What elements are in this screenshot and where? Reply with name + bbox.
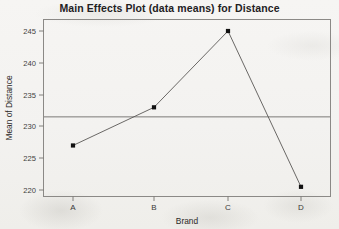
x-tick-label-d: D [298, 203, 304, 212]
y-tick-label-235: 235 [23, 91, 36, 100]
data-point-d [299, 185, 303, 189]
series-line-mean-of-distance [73, 31, 301, 187]
main-effects-plot: 245 240 235 230 225 220 Mean of Distance… [0, 0, 339, 229]
data-point-c [226, 29, 230, 33]
data-point-a [71, 143, 75, 147]
x-tick-label-b: B [151, 203, 156, 212]
y-tick-label-225: 225 [23, 154, 36, 163]
x-axis-title: Brand [176, 216, 199, 226]
series-markers [71, 29, 303, 189]
x-axis-ticks [73, 197, 301, 202]
y-tick-label-240: 240 [23, 59, 36, 68]
x-tick-label-a: A [70, 203, 76, 212]
x-tick-label-c: C [225, 203, 231, 212]
y-tick-label-245: 245 [23, 27, 36, 36]
y-tick-label-220: 220 [23, 186, 36, 195]
y-tick-label-230: 230 [23, 122, 36, 131]
plot-frame [44, 20, 331, 197]
data-point-b [152, 105, 156, 109]
y-axis-ticks [39, 31, 44, 190]
y-axis-title: Mean of Distance [4, 75, 14, 141]
